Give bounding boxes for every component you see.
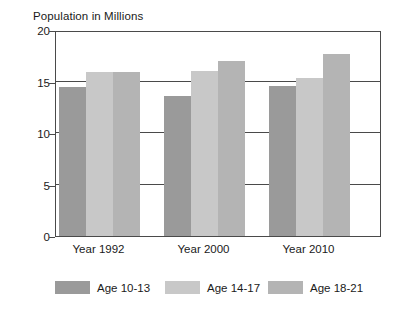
bar xyxy=(86,72,113,236)
y-axis: 05101520 xyxy=(0,31,50,237)
plot-area xyxy=(55,31,381,237)
legend-label: Age 18-21 xyxy=(310,282,363,294)
legend-label: Age 10-13 xyxy=(97,282,150,294)
bar xyxy=(269,86,296,236)
legend-swatch-icon xyxy=(268,281,303,294)
y-tick-label-10: 10 xyxy=(4,128,50,140)
bar xyxy=(59,87,86,236)
y-tick-mark-0 xyxy=(49,237,55,238)
y-tick-label-20: 20 xyxy=(4,25,50,37)
bar xyxy=(191,71,218,236)
x-tick-label-0: Year 1992 xyxy=(72,243,124,255)
legend-swatch-icon xyxy=(55,281,90,294)
bar xyxy=(296,78,323,236)
legend-label: Age 14-17 xyxy=(207,282,260,294)
chart-legend: Age 10-13Age 14-17Age 18-21 xyxy=(0,281,397,299)
legend-item: Age 18-21 xyxy=(268,281,363,294)
bar-chart-figure: Population in Millions 05101520 Year 199… xyxy=(0,0,397,313)
bar xyxy=(218,61,245,236)
legend-item: Age 10-13 xyxy=(55,281,150,294)
x-axis: Year 1992Year 2000Year 2010 xyxy=(55,243,381,261)
legend-item: Age 14-17 xyxy=(165,281,260,294)
y-tick-label-5: 5 xyxy=(4,180,50,192)
legend-swatch-icon xyxy=(165,281,200,294)
y-tick-label-15: 15 xyxy=(4,77,50,89)
x-tick-label-2: Year 2010 xyxy=(282,243,334,255)
x-tick-label-1: Year 2000 xyxy=(177,243,229,255)
bar xyxy=(323,54,350,236)
chart-title: Population in Millions xyxy=(33,10,143,22)
bar xyxy=(164,96,191,236)
bar xyxy=(113,72,140,236)
y-tick-label-0: 0 xyxy=(4,231,50,243)
